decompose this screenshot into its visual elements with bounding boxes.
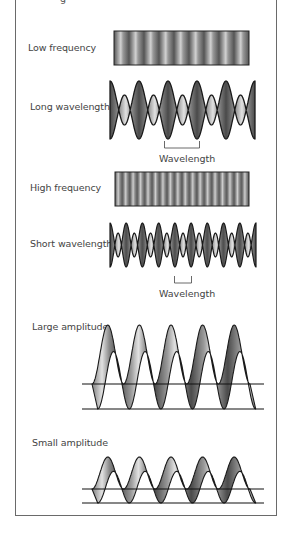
short-wavelength-wave	[110, 223, 256, 267]
waves-diagram	[0, 0, 283, 534]
long-wavelength-wave	[110, 81, 255, 139]
low-frequency-bar	[114, 31, 249, 65]
wavelength-bracket-short	[175, 276, 192, 283]
large-amplitude-wave	[82, 325, 264, 409]
small-amplitude-wave	[82, 457, 264, 503]
high-frequency-bar	[115, 172, 249, 206]
wavelength-bracket-long	[165, 141, 200, 148]
